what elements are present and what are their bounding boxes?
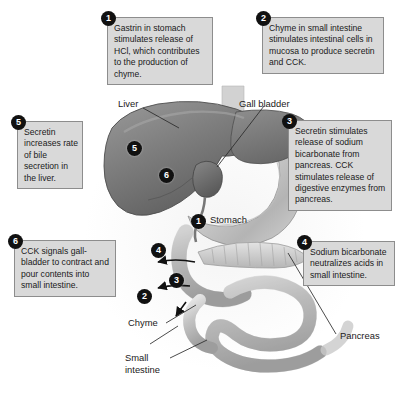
organ-label-stomach: Stomach: [210, 214, 247, 226]
anatomy-marker-4: 4: [151, 243, 166, 258]
organ-label-gall-bladder: Gall bladder: [239, 98, 290, 110]
organ-label-pancreas: Pancreas: [340, 330, 380, 342]
organ-label-small-intestine: Small intestine: [125, 352, 160, 375]
organ-label-chyme: Chyme: [128, 317, 158, 329]
anatomy-marker-2: 2: [137, 289, 152, 304]
callout-text-2: Chyme in small intestine stimulates inte…: [269, 23, 379, 69]
callout-badge-4: 4: [297, 235, 312, 250]
anatomy-marker-5: 5: [127, 141, 142, 156]
callout-badge-6: 6: [8, 234, 23, 249]
callout-badge-3: 3: [282, 114, 297, 129]
callout-text-4: Sodium bicarbonate neutralizes acids in …: [310, 247, 390, 281]
anatomy-marker-6: 6: [159, 168, 174, 183]
callout-box-1: 1 Gastrin in stomach stimulates release …: [107, 17, 213, 85]
callout-badge-5: 5: [11, 115, 26, 130]
callout-text-3: Secretin stimulates release of sodium bi…: [295, 126, 387, 206]
callout-box-2: 2 Chyme in small intestine stimulates in…: [262, 17, 384, 74]
callout-box-5: 5 Secretin increases rate of bile secret…: [17, 121, 83, 189]
callout-box-4: 4 Sodium bicarbonate neutralizes acids i…: [303, 241, 395, 286]
gall-bladder-shape: [193, 161, 223, 197]
callout-box-3: 3 Secretin stimulates release of sodium …: [288, 120, 392, 211]
organ-label-liver: Liver: [118, 98, 138, 110]
callout-badge-1: 1: [101, 11, 116, 26]
callout-text-6: CCK signals gall-bladder to contract and…: [21, 246, 111, 292]
callout-badge-2: 2: [256, 11, 271, 26]
digestion-hormone-diagram: Liver Gall bladder Stomach Chyme Small i…: [0, 0, 417, 398]
anatomy-marker-3: 3: [169, 273, 184, 288]
callout-text-5: Secretin increases rate of bile secretio…: [24, 127, 78, 184]
callout-text-1: Gastrin in stomach stimulates release of…: [114, 23, 208, 80]
anatomy-marker-1: 1: [191, 214, 206, 229]
callout-box-6: 6 CCK signals gall-bladder to contract a…: [14, 240, 116, 297]
